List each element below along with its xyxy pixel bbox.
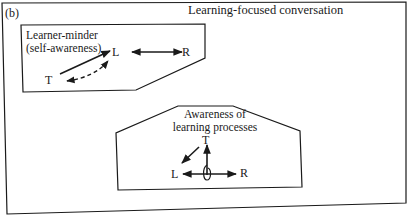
arrow-t-l-dashed — [67, 61, 108, 81]
node-r-box2: R — [240, 166, 248, 181]
learner-minder-label: Learner-minder (self-awareness) — [26, 29, 101, 55]
learner-minder-label-line1: Learner-minder — [26, 29, 101, 42]
arrow-t-to-l-diagonal — [182, 147, 199, 163]
node-l-box1: L — [112, 45, 119, 60]
panel-label: (b) — [5, 6, 19, 21]
node-l-box2: L — [171, 167, 178, 182]
awareness-label: Awareness of learning processes — [170, 108, 260, 134]
node-t-box1: T — [45, 73, 52, 88]
awareness-label-line1: Awareness of — [170, 108, 260, 121]
diagram-title: Learning-focused conversation — [188, 3, 343, 18]
node-t-box2: T — [202, 133, 209, 148]
awareness-label-line2: learning processes — [170, 121, 260, 134]
node-r-box1: R — [182, 45, 190, 60]
learner-minder-label-line2: (self-awareness) — [26, 42, 101, 55]
